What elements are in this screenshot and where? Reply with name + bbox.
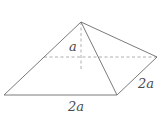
left-lateral-edge — [4, 22, 81, 95]
front-lateral-edge — [81, 22, 117, 95]
base-side-label: 2a — [137, 76, 154, 91]
height-label: a — [69, 39, 77, 54]
back-lateral-edge — [81, 22, 157, 57]
pyramid-diagram: a 2a 2a — [0, 0, 163, 115]
base-front-label: 2a — [67, 99, 84, 114]
